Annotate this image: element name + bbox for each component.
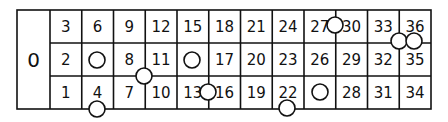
chip-split-13-16[interactable] [200,84,216,100]
zero-label[interactable]: 0 [27,48,40,72]
number-cell-22[interactable]: 22 [279,84,298,102]
number-cell-26[interactable]: 26 [310,51,329,69]
chip-corner-7-8-10-11[interactable] [136,68,152,84]
number-cell-21[interactable]: 21 [247,18,266,36]
chip-street-4-5-6[interactable] [89,101,105,117]
roulette-board: 0369121518212427303336281117202326293235… [0,0,448,122]
number-cell-20[interactable]: 20 [247,51,266,69]
number-cell-9[interactable]: 9 [125,18,135,36]
number-cell-32[interactable]: 32 [374,51,393,69]
number-cell-33[interactable]: 33 [374,18,393,36]
number-cell-7[interactable]: 7 [125,84,135,102]
number-cell-28[interactable]: 28 [342,84,361,102]
number-cell-12[interactable]: 12 [152,18,171,36]
number-cell-35[interactable]: 35 [406,51,425,69]
number-cell-19[interactable]: 19 [247,84,266,102]
chip-straight-14[interactable] [184,52,200,68]
chip-corner-32-33-35-36[interactable] [391,33,407,49]
chip-split-35-36[interactable] [406,33,422,49]
number-cell-10[interactable]: 10 [152,84,171,102]
number-cell-16[interactable]: 16 [215,84,234,102]
number-cell-3[interactable]: 3 [61,18,71,36]
number-cell-8[interactable]: 8 [125,51,135,69]
chip-straight-25[interactable] [312,84,328,100]
number-cell-2[interactable]: 2 [61,51,71,69]
number-cell-23[interactable]: 23 [279,51,298,69]
chip-split-27-30[interactable] [327,17,343,33]
number-cell-6[interactable]: 6 [93,18,103,36]
number-cell-24[interactable]: 24 [279,18,298,36]
number-cell-18[interactable]: 18 [215,18,234,36]
chip-street-22-23-24[interactable] [279,100,295,116]
number-cell-11[interactable]: 11 [152,51,171,69]
number-cell-4[interactable]: 4 [93,84,103,102]
number-cell-1[interactable]: 1 [61,84,71,102]
number-labels: 0369121518212427303336281117202326293235… [27,18,425,102]
number-cell-31[interactable]: 31 [374,84,393,102]
number-cell-34[interactable]: 34 [406,84,425,102]
number-cell-15[interactable]: 15 [183,18,202,36]
number-cell-17[interactable]: 17 [215,51,234,69]
chip-straight-5[interactable] [89,52,105,68]
number-cell-29[interactable]: 29 [342,51,361,69]
number-cell-30[interactable]: 30 [342,18,361,36]
